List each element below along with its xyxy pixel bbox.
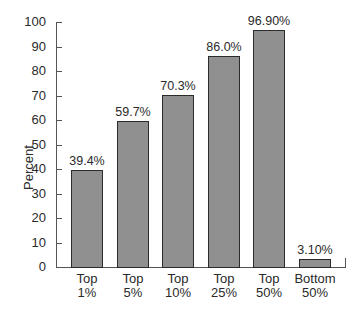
y-tick-label: 60	[16, 113, 46, 127]
y-tick-mark	[56, 218, 62, 219]
y-tick-label: 0	[16, 260, 46, 274]
y-tick-label: 70	[16, 89, 46, 103]
y-tick-mark	[56, 169, 62, 170]
y-tick-label: 10	[16, 236, 46, 250]
y-tick-label: 40	[16, 162, 46, 176]
y-tick-mark	[56, 120, 62, 121]
y-tick-label: 50	[16, 138, 46, 152]
y-tick-label: 100	[16, 15, 46, 29]
y-tick-label: 90	[16, 40, 46, 54]
bar-chart: Percent 0102030405060708090100 39.4%Top1…	[0, 0, 361, 309]
y-tick-mark	[56, 22, 62, 23]
bar-value-label: 86.0%	[194, 40, 254, 54]
bar	[162, 95, 194, 268]
bar	[117, 121, 149, 268]
bar-value-label: 70.3%	[148, 79, 208, 93]
y-tick-label: 30	[16, 187, 46, 201]
y-tick-mark	[56, 145, 62, 146]
y-tick-label: 80	[16, 64, 46, 78]
bar-value-label: 96.90%	[239, 14, 299, 28]
y-tick-label: 20	[16, 211, 46, 225]
y-tick-mark	[56, 47, 62, 48]
y-tick-mark	[56, 96, 62, 97]
bar	[299, 259, 331, 268]
bar	[208, 56, 240, 268]
y-tick-mark	[56, 194, 62, 195]
y-tick-mark	[56, 71, 62, 72]
y-tick-mark	[56, 243, 62, 244]
x-axis-end-tick	[345, 258, 346, 268]
bar-value-label: 39.4%	[57, 154, 117, 168]
x-category-label: Bottom50%	[285, 272, 345, 300]
y-tick-mark	[56, 267, 62, 268]
bar-value-label: 59.7%	[103, 105, 163, 119]
bar	[253, 30, 285, 268]
bar-value-label: 3.10%	[285, 243, 345, 257]
bar	[71, 170, 103, 268]
